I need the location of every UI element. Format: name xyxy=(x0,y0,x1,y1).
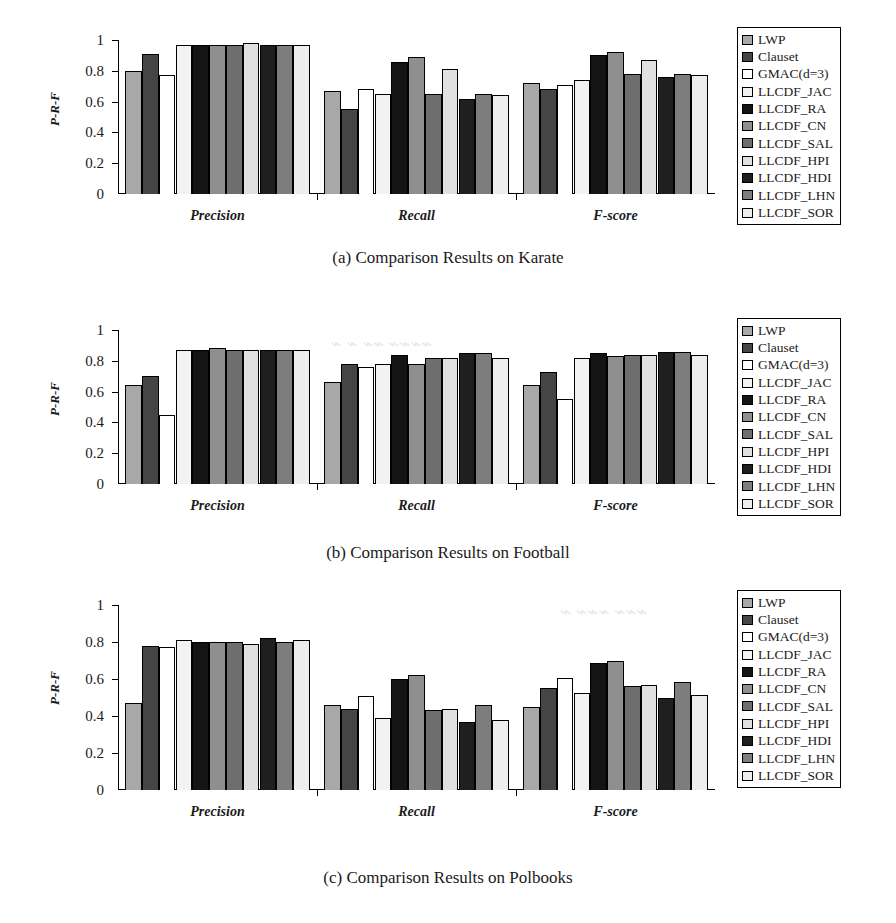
legend-swatch-icon xyxy=(742,104,753,114)
legend-label: LWP xyxy=(758,596,786,610)
legend-label: LLCDF_RA xyxy=(758,102,826,116)
legend-item[interactable]: LLCDF_CN xyxy=(742,408,835,425)
bar-llcdf-ra-recall xyxy=(391,355,408,484)
legend-label: LLCDF_LHN xyxy=(758,480,835,494)
y-tick-label: 0.4 xyxy=(60,414,104,431)
legend-item[interactable]: LLCDF_SAL xyxy=(742,135,835,152)
legend-item[interactable]: LWP xyxy=(742,31,835,48)
y-tick-label: 0 xyxy=(60,186,104,203)
legend-label: LLCDF_HPI xyxy=(758,154,829,168)
bar-clauset-recall xyxy=(341,109,358,194)
legend-item[interactable]: Clauset xyxy=(742,48,835,65)
legend-item[interactable]: LLCDF_CN xyxy=(742,117,835,134)
legend-item[interactable]: LLCDF_SAL xyxy=(742,698,835,715)
legend-label: LLCDF_CN xyxy=(758,410,826,424)
bar-llcdf-hdi-recall xyxy=(459,99,476,194)
bar-lwp-precision xyxy=(125,703,142,790)
bar-llcdf-hpi-f-score xyxy=(641,685,658,790)
legend-item[interactable]: LLCDF_HDI xyxy=(742,732,835,749)
x-tick-mark xyxy=(317,790,318,796)
bar-gmac-d-3--recall xyxy=(358,89,375,194)
legend-item[interactable]: LLCDF_CN xyxy=(742,680,835,697)
bar-llcdf-sor-recall xyxy=(492,95,509,194)
bar-llcdf-sal-recall xyxy=(425,94,442,194)
legend-label: LLCDF_HDI xyxy=(758,734,832,748)
bar-gmac-d-3--precision xyxy=(159,647,176,790)
legend-item[interactable]: LLCDF_HPI xyxy=(742,715,835,732)
figure-page: ⌁ ⌁ ⌁⌁ ⌁⌁⌁⌁ ⌁ ⌁⌁⌁ ⌁⌁⌁ P-R-F00.20.40.60.8… xyxy=(0,0,896,923)
legend-item[interactable]: LLCDF_HDI xyxy=(742,169,835,186)
legend-swatch-icon xyxy=(742,395,753,405)
bar-clauset-f-score xyxy=(540,688,557,790)
legend-swatch-icon xyxy=(742,481,753,491)
legend-item[interactable]: LLCDF_LHN xyxy=(742,478,835,495)
legend-item[interactable]: LLCDF_SAL xyxy=(742,426,835,443)
bar-llcdf-cn-f-score xyxy=(607,356,624,484)
bar-llcdf-sal-recall xyxy=(425,358,442,484)
bar-llcdf-ra-recall xyxy=(391,679,408,790)
legend-item[interactable]: LLCDF_RA xyxy=(742,663,835,680)
y-tick-label: 0.4 xyxy=(60,708,104,725)
y-tick-label: 1 xyxy=(60,597,104,614)
bar-clauset-precision xyxy=(142,376,159,484)
legend-item[interactable]: LLCDF_HPI xyxy=(742,152,835,169)
legend-item[interactable]: LLCDF_JAC xyxy=(742,646,835,663)
x-axis-group-label: F-score xyxy=(593,498,637,514)
legend-item[interactable]: LLCDF_SOR xyxy=(742,495,835,512)
y-tick-label: 0.8 xyxy=(60,352,104,369)
legend-swatch-icon xyxy=(742,632,753,642)
legend-item[interactable]: GMAC(d=3) xyxy=(742,66,835,83)
chart-legend: LWPClausetGMAC(d=3)LLCDF_JACLLCDF_RALLCD… xyxy=(737,590,841,788)
legend-item[interactable]: GMAC(d=3) xyxy=(742,629,835,646)
legend-swatch-icon xyxy=(742,138,753,148)
legend-label: LLCDF_HPI xyxy=(758,717,829,731)
legend-item[interactable]: LLCDF_JAC xyxy=(742,83,835,100)
legend-item[interactable]: GMAC(d=3) xyxy=(742,357,835,374)
panel-caption-c: (c) Comparison Results on Polbooks xyxy=(0,868,896,888)
legend-item[interactable]: LLCDF_SOR xyxy=(742,204,835,221)
panel-caption-a: (a) Comparison Results on Karate xyxy=(0,248,896,268)
bar-llcdf-cn-f-score xyxy=(607,661,624,791)
legend-item[interactable]: LLCDF_HPI xyxy=(742,443,835,460)
legend-item[interactable]: LLCDF_HDI xyxy=(742,460,835,477)
legend-item[interactable]: Clauset xyxy=(742,611,835,628)
legend-item[interactable]: Clauset xyxy=(742,339,835,356)
bar-llcdf-lhn-f-score xyxy=(674,352,691,484)
legend-label: Clauset xyxy=(758,341,799,355)
bar-llcdf-sor-precision xyxy=(293,45,310,194)
legend-item[interactable]: LLCDF_LHN xyxy=(742,187,835,204)
legend-item[interactable]: LLCDF_LHN xyxy=(742,750,835,767)
legend-item[interactable]: LLCDF_RA xyxy=(742,100,835,117)
bar-llcdf-lhn-recall xyxy=(475,705,492,790)
bar-gmac-d-3--recall xyxy=(358,696,375,790)
bar-lwp-precision xyxy=(125,71,142,194)
legend-item[interactable]: LWP xyxy=(742,322,835,339)
legend-label: LWP xyxy=(758,324,786,338)
bar-llcdf-hdi-f-score xyxy=(658,77,675,194)
legend-swatch-icon xyxy=(742,69,753,79)
legend-swatch-icon xyxy=(742,360,753,370)
bar-clauset-precision xyxy=(142,646,159,790)
bar-llcdf-lhn-precision xyxy=(276,642,293,790)
bar-llcdf-jac-precision xyxy=(176,45,193,194)
legend-swatch-icon xyxy=(742,464,753,474)
bar-llcdf-sal-precision xyxy=(226,45,243,194)
y-tick-label: 0.2 xyxy=(60,155,104,172)
x-axis-group-label: Recall xyxy=(398,208,435,224)
x-tick-mark xyxy=(317,194,318,200)
legend-item[interactable]: LLCDF_SOR xyxy=(742,767,835,784)
legend-label: LLCDF_LHN xyxy=(758,189,835,203)
legend-swatch-icon xyxy=(742,650,753,660)
y-tick-label: 0.8 xyxy=(60,62,104,79)
bar-clauset-recall xyxy=(341,364,358,484)
bar-llcdf-ra-f-score xyxy=(590,663,607,790)
bar-llcdf-lhn-recall xyxy=(475,353,492,484)
legend-item[interactable]: LLCDF_JAC xyxy=(742,374,835,391)
bar-gmac-d-3--f-score xyxy=(557,85,574,194)
bar-clauset-f-score xyxy=(540,372,557,484)
bar-llcdf-ra-f-score xyxy=(590,353,607,484)
legend-item[interactable]: LLCDF_RA xyxy=(742,391,835,408)
legend-item[interactable]: LWP xyxy=(742,594,835,611)
y-tick-label: 0.2 xyxy=(60,445,104,462)
legend-label: LLCDF_SOR xyxy=(758,769,834,783)
